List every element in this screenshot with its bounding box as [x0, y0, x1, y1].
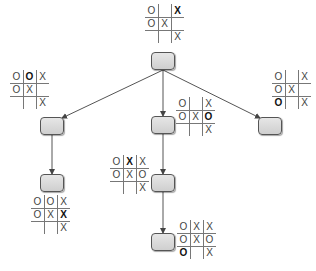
board-cell: [36, 83, 49, 96]
board-cell: O: [272, 70, 285, 83]
board-cell: O: [176, 97, 189, 110]
board-cell: X: [190, 220, 203, 233]
board-cell: X: [298, 70, 311, 83]
board-cell: X: [171, 4, 184, 17]
board-cell: [176, 123, 189, 136]
board-cell: O: [176, 110, 189, 123]
board-cell: X: [202, 97, 215, 110]
board-cell: [31, 221, 44, 234]
board-cell: X: [36, 96, 49, 109]
board-cell: [171, 17, 184, 30]
board-cell: O: [202, 110, 215, 123]
board-cell: X: [136, 181, 149, 194]
board-cell: [285, 70, 298, 83]
board-cell: O: [10, 83, 23, 96]
board-cell: O: [203, 233, 216, 246]
board-cell: O: [31, 195, 44, 208]
board-cell: X: [36, 70, 49, 83]
board-cell: O: [110, 155, 123, 168]
board-cell: X: [57, 221, 70, 234]
board-cell: X: [57, 195, 70, 208]
tree-node-root: [151, 52, 175, 70]
board-mid-2: OXXOXOX: [110, 155, 149, 194]
board-cell: O: [145, 17, 158, 30]
board-cell: O: [23, 70, 36, 83]
board-cell: X: [298, 96, 311, 109]
board-cell: O: [145, 4, 158, 17]
board-cell: X: [158, 17, 171, 30]
board-cell: O: [272, 96, 285, 109]
board-cell: [189, 123, 202, 136]
board-cell: X: [203, 220, 216, 233]
board-cell: [44, 221, 57, 234]
tree-node-right-1: [258, 117, 282, 135]
board-cell: [190, 246, 203, 259]
board-cell: X: [44, 208, 57, 221]
board-cell: X: [190, 233, 203, 246]
board-cell: [189, 97, 202, 110]
board-cell: [110, 181, 123, 194]
board-mid-3: OXXOXOOX: [177, 220, 216, 259]
board-cell: X: [285, 83, 298, 96]
board-cell: X: [123, 155, 136, 168]
board-left-2: OOXOXXX: [31, 195, 70, 234]
edge-arrow: [62, 70, 163, 118]
board-left-1: OOXOXX: [10, 70, 49, 109]
board-cell: O: [31, 208, 44, 221]
tree-node-mid-2: [151, 174, 175, 192]
tree-node-mid-1: [151, 116, 175, 134]
board-mid-1: OXOXOX: [176, 97, 215, 136]
board-cell: [123, 181, 136, 194]
board-cell: [298, 83, 311, 96]
board-cell: O: [177, 233, 190, 246]
tree-node-left-2: [40, 174, 64, 192]
tree-node-mid-3: [151, 233, 175, 251]
board-cell: O: [10, 70, 23, 83]
board-cell: [158, 4, 171, 17]
board-cell: O: [177, 220, 190, 233]
board-cell: X: [189, 110, 202, 123]
board-root: OXOXX: [145, 4, 184, 43]
board-cell: X: [203, 246, 216, 259]
board-cell: X: [171, 30, 184, 43]
tree-node-left-1: [40, 117, 64, 135]
board-cell: X: [123, 168, 136, 181]
board-cell: O: [110, 168, 123, 181]
board-cell: O: [272, 83, 285, 96]
board-cell: [145, 30, 158, 43]
board-cell: X: [23, 83, 36, 96]
board-cell: [10, 96, 23, 109]
board-cell: O: [136, 168, 149, 181]
board-right-1: OXOXOX: [272, 70, 311, 109]
board-cell: [158, 30, 171, 43]
board-cell: X: [202, 123, 215, 136]
board-cell: O: [177, 246, 190, 259]
board-cell: [23, 96, 36, 109]
board-cell: X: [57, 208, 70, 221]
board-cell: X: [136, 155, 149, 168]
board-cell: O: [44, 195, 57, 208]
board-cell: [285, 96, 298, 109]
